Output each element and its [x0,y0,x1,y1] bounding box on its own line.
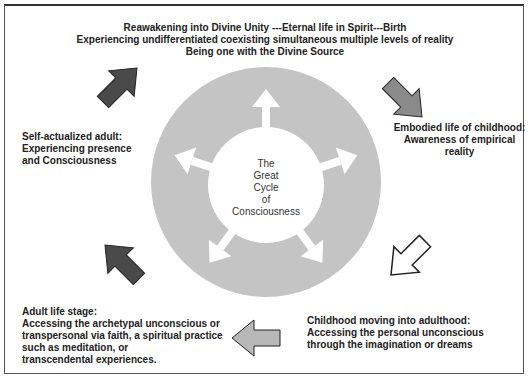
stage-bottom-left-line: transcendental experiences. [22,354,223,366]
center-line: of [216,194,316,206]
stage-top-line: Being one with the Divine Source [0,46,530,58]
stage-bottom-right-text: Childhood moving into adulthood: Accessi… [307,315,484,351]
stage-top-text: Reawakening into Divine Unity ---Eternal… [0,22,530,58]
stage-top-line: Experiencing undifferentiated coexisting… [0,34,530,46]
stage-bottom-left-line: such as meditation, or [22,342,223,354]
stage-left-text: Self-actualized adult: Experiencing pres… [22,131,132,167]
stage-left-line: Self-actualized adult: [22,131,132,143]
center-line: Consciousness [216,206,316,218]
stage-bottom-left-line: Accessing the archetypal unconscious or [22,318,223,330]
stage-bottom-right-line: Accessing the personal unconscious [307,327,484,339]
stage-bottom-left-line: Adult life stage: [22,306,223,318]
stage-right-line: Awareness of empirical reality [389,134,530,158]
stage-bottom-right-line: through the imagination or dreams [307,339,484,351]
stage-bottom-left-line: transpersonal via faith, a spiritual pra… [22,330,223,342]
center-line: The [216,158,316,170]
arrow-left [92,232,151,291]
arrow-top-left [90,55,149,114]
arrow-top-right [375,70,434,129]
arrow-right-white [378,228,437,287]
stage-bottom-right-line: Childhood moving into adulthood: [307,315,484,327]
stage-top-line: Reawakening into Divine Unity ---Eternal… [0,22,530,34]
center-line: Great [216,170,316,182]
stage-bottom-left-text: Adult life stage: Accessing the archetyp… [22,306,223,366]
stage-right-line: Embodied life of childhood: [389,122,530,134]
arrow-bottom [232,320,280,356]
stage-left-line: Experiencing presence [22,143,132,155]
stage-right-text: Embodied life of childhood: Awareness of… [389,122,530,158]
center-title: The Great Cycle of Consciousness [216,158,316,218]
center-line: Cycle [216,182,316,194]
stage-left-line: and Consciousness [22,155,132,167]
